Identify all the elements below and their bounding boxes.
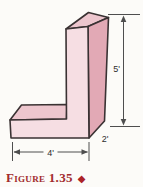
height-dimension-label: 5': [113, 64, 120, 74]
right-arrow-icon: [82, 149, 89, 155]
figure-caption-label: Figure 1.35: [6, 170, 73, 185]
up-arrow-icon: [121, 16, 127, 23]
figure-canvas: 5' 4' 2' Figure 1.35◆: [0, 0, 143, 187]
width-dimension-label: 4': [47, 148, 54, 158]
l-solid-right-side-face: [88, 18, 109, 139]
figure-caption: Figure 1.35◆: [6, 168, 85, 186]
down-arrow-icon: [121, 119, 127, 126]
l-solid-diagram: 5' 4' 2': [0, 0, 143, 165]
l-solid-base-top-face: [10, 105, 67, 121]
l-solid-front-face: [10, 27, 89, 139]
left-arrow-icon: [14, 149, 21, 155]
depth-dimension-label: 2': [102, 134, 109, 144]
diamond-icon: ◆: [78, 173, 86, 184]
